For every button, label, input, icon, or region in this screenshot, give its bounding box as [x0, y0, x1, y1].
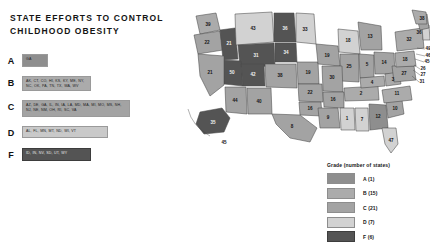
- leader-46: [416, 54, 425, 56]
- rank-al: 7: [361, 117, 364, 122]
- legend-row-c: C (21): [316, 202, 426, 213]
- grade-states-b: AK, CT, CO, HI, KS, KY, ME, NY, NC, OK, …: [22, 76, 91, 91]
- leader-26: [414, 65, 420, 69]
- rank-mt: 43: [250, 26, 256, 31]
- rank-mn: 33: [302, 27, 308, 32]
- rank-nv: 50: [229, 70, 235, 75]
- rank-la: 9: [327, 115, 330, 120]
- legend-label-c: C (21): [363, 205, 378, 211]
- state-tx[interactable]: [272, 114, 317, 142]
- rank-ny: 32: [406, 37, 412, 42]
- rank-ut: 42: [250, 72, 256, 77]
- legend-row-a: A (1): [316, 173, 426, 184]
- rank-me: 38: [419, 16, 425, 21]
- rank-ok: 16: [307, 106, 313, 111]
- rank-nh: 36: [416, 30, 422, 35]
- grade-states-a: GA: [22, 54, 48, 67]
- rank-ia: 19: [324, 53, 330, 58]
- us-choropleth-map: 39 22 21 43 36 33 31 34 50 42 38 19 21 4…: [186, 4, 430, 156]
- grade-row-c: C AZ, DE, GA, IL, IN, IA, LA, MD, MA, MI…: [0, 100, 186, 117]
- grade-states-d: AL, FL, MN, MT, ND, WI, VT: [22, 126, 108, 138]
- page-title: STATE EFFORTS TO CONTROL CHILDHOOD OBESI…: [10, 12, 185, 38]
- legend-swatch-d: [327, 217, 355, 228]
- rank-pa: 18: [402, 57, 408, 62]
- map-svg: 39 22 21 43 36 33 31 34 50 42 38 19 21 4…: [186, 4, 430, 156]
- legend-label-f: F (6): [363, 234, 374, 240]
- grade-row-b: B AK, CT, CO, HI, KS, KY, ME, NY, NC, OK…: [0, 76, 186, 91]
- rank-mo: 30: [329, 75, 335, 80]
- rank-oh: 14: [381, 60, 387, 65]
- rank-hi: 45: [221, 140, 227, 145]
- rank-nj: 26: [420, 66, 426, 71]
- rank-ky: 4: [371, 80, 374, 85]
- rank-sc: 10: [392, 106, 398, 111]
- rank-il: 25: [346, 64, 352, 69]
- legend-swatch-f: [327, 231, 355, 242]
- state-ca[interactable]: [198, 54, 224, 96]
- legend-row-f: F (6): [316, 231, 426, 242]
- legend-row-d: D (7): [316, 217, 426, 228]
- rank-mi: 13: [367, 34, 373, 39]
- rank-nd: 36: [282, 26, 288, 31]
- rank-ak: 35: [210, 120, 216, 125]
- left-panel: STATE EFFORTS TO CONTROL CHILDHOOD OBESI…: [0, 0, 186, 245]
- rank-ct: 45: [424, 59, 430, 64]
- grade-letter-f: F: [0, 148, 22, 160]
- rank-de: 27: [420, 72, 426, 77]
- rank-wv: 3: [392, 77, 395, 82]
- rank-ri: 46: [425, 53, 430, 58]
- rank-fl: 47: [388, 138, 394, 143]
- rank-id: 21: [226, 41, 232, 46]
- legend-swatch-b: [327, 188, 355, 199]
- rank-ar: 16: [330, 97, 336, 102]
- legend-title: Grade (number of states): [327, 162, 426, 168]
- rank-co: 38: [277, 73, 283, 78]
- rank-wa: 39: [205, 22, 211, 27]
- rank-md: 31: [419, 79, 425, 84]
- rank-ks: 22: [307, 90, 313, 95]
- legend-label-d: D (7): [363, 219, 375, 225]
- legend-swatch-a: [327, 173, 355, 184]
- legend-row-b: B (15): [316, 188, 426, 199]
- rank-ca: 21: [207, 70, 213, 75]
- rank-wy: 31: [253, 53, 259, 58]
- legend-label-b: B (15): [363, 190, 378, 196]
- grade-letter-b: B: [0, 76, 22, 88]
- rank-nm: 40: [256, 99, 262, 104]
- leader-45: [415, 59, 424, 62]
- rank-tx: 8: [291, 124, 294, 129]
- rank-wi: 18: [345, 38, 351, 43]
- map-legend: Grade (number of states) A (1) B (15) C …: [316, 162, 426, 245]
- rank-in: 5: [366, 62, 369, 67]
- grade-row-a: A GA: [0, 54, 186, 67]
- grade-letter-c: C: [0, 100, 22, 112]
- rank-nc: 11: [395, 91, 400, 96]
- grade-states-f: ID, IN, NV, SD, UT, WY: [22, 148, 91, 161]
- rank-va: 27: [401, 71, 407, 76]
- grade-row-d: D AL, FL, MN, MT, ND, WI, VT: [0, 126, 186, 138]
- grade-states-c: AZ, DE, GA, IL, IN, IA, LA, MD, MA, MI, …: [22, 100, 130, 117]
- rank-ga: 12: [375, 114, 381, 119]
- rank-sd: 34: [283, 50, 289, 55]
- legend-label-a: A (1): [363, 176, 374, 182]
- grade-letter-a: A: [0, 54, 22, 66]
- rank-ma: 49: [425, 46, 430, 51]
- rank-tn: 2: [360, 91, 363, 96]
- rank-or: 22: [204, 40, 210, 45]
- rank-ne: 19: [305, 70, 311, 75]
- grade-letter-d: D: [0, 126, 22, 138]
- rank-ms: 1: [346, 116, 349, 121]
- grade-list: A GA B AK, CT, CO, HI, KS, KY, ME, NY, N…: [0, 54, 186, 164]
- rank-az: 44: [232, 98, 238, 103]
- grade-row-f: F ID, IN, NV, SD, UT, WY: [0, 148, 186, 161]
- legend-swatch-c: [327, 202, 355, 213]
